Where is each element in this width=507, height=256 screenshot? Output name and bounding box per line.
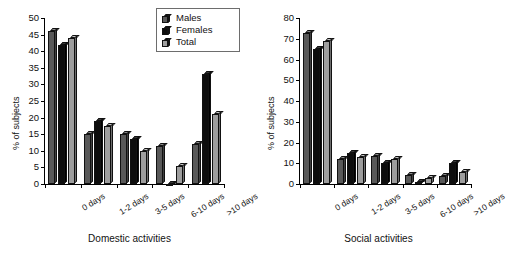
y-tick-label-domestic: 35 — [28, 63, 39, 73]
y-axis-label-social: % of subjects — [266, 96, 276, 150]
y-tick-label-social: 0 — [289, 179, 294, 189]
y-tick-label-social: 80 — [283, 13, 294, 23]
x-tick-social — [471, 184, 472, 188]
bar-total-0-days — [68, 35, 77, 184]
x-tick-domestic — [152, 184, 153, 188]
bar-group — [300, 18, 334, 184]
bar-total-3-5-days — [391, 156, 400, 184]
bar-males-0-days — [303, 30, 312, 184]
x-tick-social — [437, 184, 438, 188]
y-tick-label-domestic: 0 — [34, 179, 39, 189]
bar-total-6-10-days — [425, 175, 434, 184]
bar-total--10-days — [212, 111, 221, 184]
bar-total-6-10-days — [176, 163, 185, 184]
bar-total-0-days — [323, 38, 332, 184]
y-tick-label-social: 70 — [283, 34, 294, 44]
bar-group — [334, 18, 368, 184]
x-tick-domestic — [188, 184, 189, 188]
y-tick-label-social: 10 — [283, 159, 294, 169]
bar-females--10-days — [449, 160, 458, 184]
bar-males-1-2-days — [84, 131, 93, 184]
bar-females-6-10-days — [166, 181, 175, 184]
bar-females-6-10-days — [415, 179, 424, 184]
y-tick-label-social: 50 — [283, 76, 294, 86]
y-tick-label-social: 30 — [283, 117, 294, 127]
bar-males-6-10-days — [156, 143, 165, 184]
x-tick-domestic — [81, 184, 82, 188]
bar-group — [368, 18, 402, 184]
y-tick-label-domestic: 40 — [28, 46, 39, 56]
legend-label: Females — [176, 25, 212, 35]
y-tick-label-social: 60 — [283, 55, 294, 65]
x-tick-label-domestic: 6-10 days — [189, 191, 226, 219]
plot-area-social: 010203040506070800 days1-2 days3-5 days6… — [299, 18, 471, 185]
bar-females-1-2-days — [94, 118, 103, 184]
y-tick-label-domestic: 5 — [34, 163, 39, 173]
bar-females-0-days — [58, 42, 67, 184]
y-tick-label-domestic: 10 — [28, 146, 39, 156]
bar-females-0-days — [313, 46, 322, 184]
x-tick-social — [403, 184, 404, 188]
bar-males-3-5-days — [371, 153, 380, 184]
bar-males-6-10-days — [405, 172, 414, 184]
bar-total-1-2-days — [104, 123, 113, 184]
chart-panel-social: % of subjects 010203040506070800 days1-2… — [243, 0, 486, 256]
x-tick-label-domestic: 1-2 days — [117, 191, 150, 217]
bar-females-3-5-days — [381, 160, 390, 184]
x-tick-label-social: >10 days — [472, 191, 507, 218]
bar-total--10-days — [459, 169, 468, 184]
bar-females-1-2-days — [347, 150, 356, 184]
y-tick-label-domestic: 45 — [28, 30, 39, 40]
x-tick-domestic — [224, 184, 225, 188]
x-tick-origin-social — [300, 184, 301, 188]
x-axis-title-domestic: Domestic activities — [8, 233, 251, 244]
y-tick-label-domestic: 15 — [28, 129, 39, 139]
legend-item-males: Males — [162, 12, 234, 24]
bar-group — [45, 18, 81, 184]
x-tick-label-social: 1-2 days — [369, 191, 402, 217]
y-tick-label-domestic: 20 — [28, 113, 39, 123]
bar-females--10-days — [202, 71, 211, 184]
bar-total-1-2-days — [357, 154, 366, 184]
y-tick-label-domestic: 50 — [28, 13, 39, 23]
bar-males--10-days — [439, 173, 448, 184]
x-tick-label-domestic: 3-5 days — [153, 191, 186, 217]
legend-swatch-icon-males — [162, 14, 170, 23]
legend-label: Males — [176, 13, 201, 23]
bar-group — [117, 18, 153, 184]
y-tick-label-social: 20 — [283, 138, 294, 148]
legend: MalesFemalesTotal — [156, 8, 240, 52]
x-tick-label-social: 6-10 days — [438, 191, 475, 219]
y-tick-label-domestic: 30 — [28, 80, 39, 90]
x-tick-label-social: 3-5 days — [403, 191, 436, 217]
legend-swatch-icon-females — [162, 26, 170, 35]
legend-swatch-icon-total — [162, 38, 170, 47]
y-tick-label-social: 40 — [283, 96, 294, 106]
x-tick-domestic — [117, 184, 118, 188]
legend-item-total: Total — [162, 36, 234, 48]
x-tick-social — [334, 184, 335, 188]
bar-males-3-5-days — [120, 131, 129, 184]
bar-males--10-days — [192, 141, 201, 184]
bar-total-3-5-days — [140, 148, 149, 184]
bar-group — [437, 18, 471, 184]
y-tick-label-domestic: 25 — [28, 96, 39, 106]
x-tick-origin-domestic — [45, 184, 46, 188]
x-tick-label-domestic: 0 days — [80, 191, 107, 213]
x-axis-title-social: Social activities — [257, 233, 500, 244]
bar-females-3-5-days — [130, 136, 139, 184]
bar-males-1-2-days — [337, 156, 346, 184]
x-tick-label-social: 0 days — [334, 191, 361, 213]
legend-item-females: Females — [162, 24, 234, 36]
bar-group — [403, 18, 437, 184]
y-axis-label-domestic: % of subjects — [11, 96, 21, 150]
bar-males-0-days — [48, 28, 57, 184]
x-tick-social — [368, 184, 369, 188]
bar-group — [81, 18, 117, 184]
legend-label: Total — [176, 37, 196, 47]
